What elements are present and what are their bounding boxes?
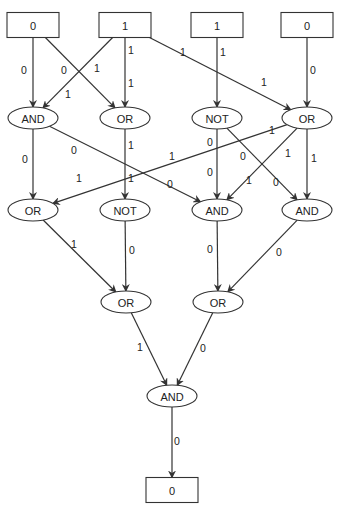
edges-layer bbox=[33, 38, 307, 478]
edge-arrow-r2d-to-r3b bbox=[228, 220, 297, 292]
edge-value-label: 0 bbox=[21, 64, 27, 76]
edge-value-label: 0 bbox=[61, 64, 67, 76]
edge-value-label: 1 bbox=[94, 62, 100, 74]
gate-label: OR bbox=[118, 297, 135, 309]
edge-arrow-r1d-to-r2a bbox=[53, 125, 287, 204]
edge-value-label: 0 bbox=[207, 166, 213, 178]
edge-arrow-r2c-to-r3b bbox=[217, 221, 218, 291]
gate-r4: AND bbox=[147, 385, 197, 407]
nodes-layer: 0110ANDORNOTORORNOTANDANDORORAND0 bbox=[7, 13, 333, 503]
edge-value-label: 0 bbox=[71, 144, 77, 156]
edge-value-label: 0 bbox=[276, 246, 282, 258]
value-text: 1 bbox=[214, 20, 220, 32]
gate-label: OR bbox=[25, 205, 42, 217]
edge-value-label: 0 bbox=[207, 243, 213, 255]
gate-label: AND bbox=[205, 205, 228, 217]
edge-value-label: 1 bbox=[285, 147, 291, 159]
edge-arrow-in0-to-r1b bbox=[45, 38, 115, 108]
edge-value-label: 0 bbox=[174, 435, 180, 447]
gate-label: OR bbox=[299, 113, 316, 125]
edge-arrow-r2b-to-r3a bbox=[125, 221, 126, 291]
edge-value-label: 1 bbox=[169, 150, 175, 162]
gate-r2c: AND bbox=[192, 199, 242, 221]
edge-value-label: 1 bbox=[269, 124, 275, 136]
gate-label: AND bbox=[21, 113, 44, 125]
gate-r3a: OR bbox=[101, 291, 151, 313]
edge-value-label: 1 bbox=[137, 341, 143, 353]
gate-r1a: AND bbox=[8, 107, 58, 129]
edge-value-label: 1 bbox=[311, 152, 317, 164]
value-box-in2: 1 bbox=[191, 13, 243, 38]
edge-value-label: 1 bbox=[76, 172, 82, 184]
gate-r1b: OR bbox=[100, 107, 150, 129]
value-text: 0 bbox=[30, 20, 36, 32]
edge-value-label: 0 bbox=[200, 342, 206, 354]
edge-value-label: 1 bbox=[71, 238, 77, 250]
gate-r1d: OR bbox=[282, 107, 332, 129]
gate-r2b: NOT bbox=[100, 199, 150, 221]
gate-label: OR bbox=[117, 113, 134, 125]
value-box-in0: 0 bbox=[7, 13, 59, 38]
gate-r2a: OR bbox=[8, 199, 58, 221]
edge-value-label: 0 bbox=[310, 64, 316, 76]
value-text: 0 bbox=[304, 20, 310, 32]
edge-value-label: 1 bbox=[246, 174, 252, 186]
gate-r3b: OR bbox=[193, 291, 243, 313]
gate-label: OR bbox=[210, 297, 227, 309]
edge-value-label: 0 bbox=[22, 153, 28, 165]
gate-label: NOT bbox=[113, 205, 137, 217]
edge-value-label: 0 bbox=[167, 178, 173, 190]
edge-value-label: 1 bbox=[128, 172, 134, 184]
gate-label: NOT bbox=[205, 113, 229, 125]
gate-label: AND bbox=[295, 205, 318, 217]
gate-r2d: AND bbox=[282, 199, 332, 221]
value-text: 1 bbox=[122, 20, 128, 32]
edge-value-label: 1 bbox=[128, 44, 134, 56]
edge-value-label: 1 bbox=[220, 46, 226, 58]
value-box-out: 0 bbox=[146, 478, 198, 503]
value-text: 0 bbox=[169, 485, 175, 497]
edge-value-label: 1 bbox=[261, 76, 267, 88]
edge-value-label: 0 bbox=[129, 244, 135, 256]
edge-value-label: 1 bbox=[65, 88, 71, 100]
edge-value-label: 0 bbox=[207, 136, 213, 148]
edge-arrow-in1-to-r1a bbox=[43, 38, 113, 108]
edge-value-label: 0 bbox=[273, 176, 279, 188]
value-box-in3: 0 bbox=[281, 13, 333, 38]
edge-arrow-r3b-to-r4 bbox=[177, 313, 212, 385]
gate-r1c: NOT bbox=[192, 107, 242, 129]
edge-value-label: 1 bbox=[180, 46, 186, 58]
edge-value-label: 0 bbox=[240, 150, 246, 162]
edge-value-label: 1 bbox=[128, 77, 134, 89]
edge-value-label: 1 bbox=[128, 139, 134, 151]
logic-circuit-diagram: 00111111100001111100001111000100 0110AND… bbox=[0, 0, 342, 508]
value-box-in1: 1 bbox=[99, 13, 151, 38]
edge-arrow-r2a-to-r3a bbox=[43, 220, 116, 292]
gate-label: AND bbox=[160, 391, 183, 403]
